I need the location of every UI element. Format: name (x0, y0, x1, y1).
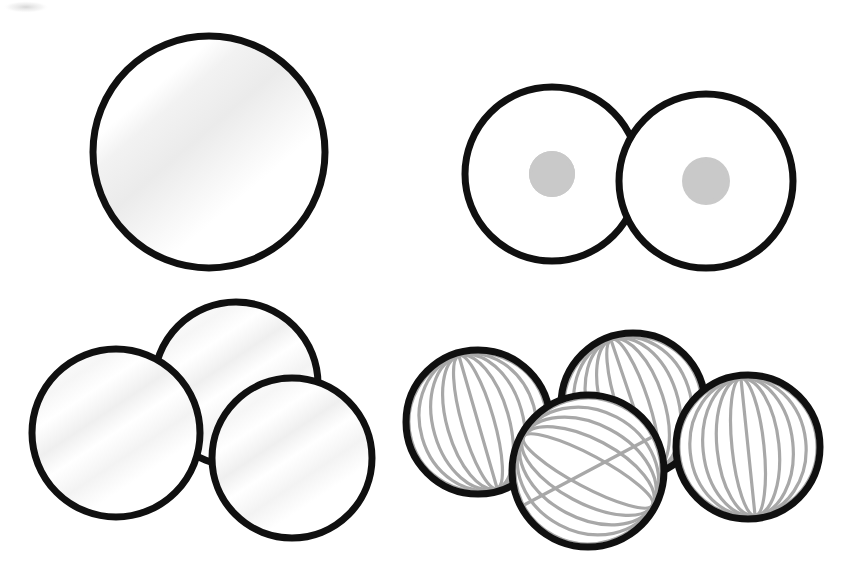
spheres-artwork (0, 0, 848, 582)
plain-sphere-3[interactable] (32, 349, 200, 517)
plain-sphere-1[interactable] (93, 36, 325, 268)
corner-smudge-arc (3, 1, 49, 13)
group-one-plain-sphere (93, 36, 325, 268)
polka-sphere-1[interactable] (465, 87, 639, 261)
polka-sphere-2[interactable] (619, 94, 793, 268)
polka-dot-pattern-2 (682, 157, 730, 205)
plain-sphere-4[interactable] (212, 378, 372, 538)
illustration-canvas (0, 0, 848, 582)
polka-dot-pattern-1 (529, 151, 575, 197)
striped-sphere-3[interactable] (672, 371, 824, 523)
